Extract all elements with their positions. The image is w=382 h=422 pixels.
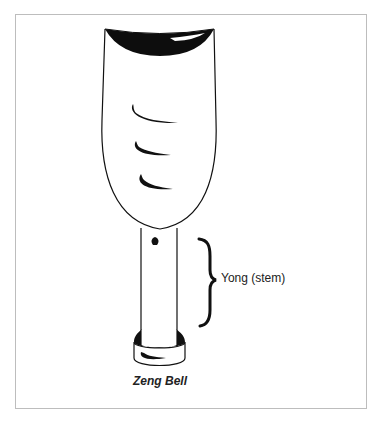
decorative-mark-3 — [139, 174, 173, 189]
decorative-mark-2 — [135, 141, 171, 155]
diagram-caption: Zeng Bell — [0, 374, 320, 388]
base-ring-inner-dark — [134, 329, 185, 348]
curly-brace — [199, 239, 216, 326]
bell-body — [102, 29, 216, 229]
zeng-bell-illustration — [0, 0, 382, 422]
stem-mark — [152, 237, 159, 245]
yong-stem-label: Yong (stem) — [221, 271, 285, 285]
decorative-mark-1 — [132, 104, 178, 123]
